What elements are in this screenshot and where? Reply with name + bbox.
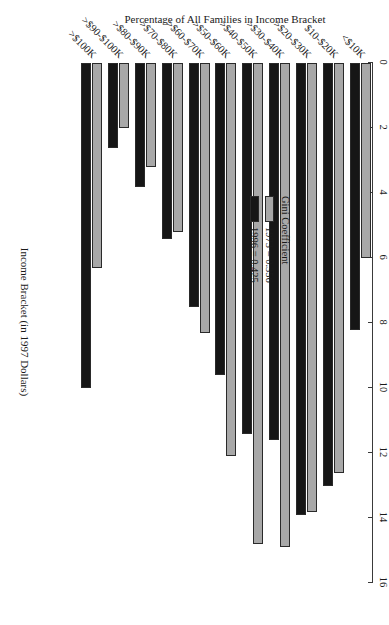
value-tick-label: 16 <box>378 577 389 588</box>
bar-1996 <box>350 63 360 330</box>
bar-1996 <box>323 63 333 486</box>
bar-group: >$50-$60K <box>210 63 237 583</box>
category-label: <$10K <box>339 33 367 61</box>
bar-1973 <box>119 63 129 128</box>
legend-swatch-1996 <box>250 196 259 222</box>
bar-1996 <box>108 63 118 148</box>
category-axis-title: Income Bracket (in 1997 Dollars) <box>19 62 31 582</box>
value-tick-label: 12 <box>378 447 389 458</box>
bar-1996 <box>215 63 225 375</box>
bar-1973 <box>173 63 183 232</box>
bar-1973 <box>92 63 102 268</box>
bar-1996 <box>135 63 145 187</box>
value-tick-label: 10 <box>378 382 389 393</box>
bar-1973 <box>280 63 290 547</box>
legend-label-1996: 1996 = 0.425 <box>248 227 261 283</box>
bar-1973 <box>200 63 210 333</box>
legend: Gini Coefficient 1973 = 0.356 1996 = 0.4… <box>248 196 292 283</box>
legend-swatch-1973 <box>265 196 274 222</box>
bar-group: >$20-$30K <box>290 63 317 583</box>
bar-group: >$70-$80K <box>156 63 183 583</box>
legend-item-1973: 1973 = 0.356 <box>263 196 276 283</box>
bar-1973 <box>361 63 371 258</box>
bar-1996 <box>189 63 199 307</box>
value-tick-label: 0 <box>378 59 389 64</box>
legend-item-1996: 1996 = 0.425 <box>248 196 261 283</box>
bar-group: <$10K <box>344 63 371 583</box>
value-tick-label: 4 <box>378 189 389 194</box>
bar-1996 <box>81 63 91 388</box>
bar-1973 <box>226 63 236 456</box>
bar-group: $10-$20K <box>317 63 344 583</box>
bar-1973 <box>146 63 156 167</box>
bar-group: >$60-$70K <box>183 63 210 583</box>
value-tick-label: 14 <box>378 512 389 523</box>
legend-label-1973: 1973 = 0.356 <box>263 227 276 283</box>
bar-1973 <box>307 63 317 512</box>
bar-1996 <box>296 63 306 515</box>
bar-1973 <box>334 63 344 473</box>
bar-group: >$100K <box>75 63 102 583</box>
plot-area: 0246810121416 <$10K$10-$20K>$20-$30K>$30… <box>77 62 373 582</box>
value-tick-label: 2 <box>378 124 389 129</box>
legend-title: Gini Coefficient <box>279 196 292 283</box>
bar-group: >$80-$90K <box>129 63 156 583</box>
value-tick-label: 6 <box>378 254 389 259</box>
bar-group: >$90-$100K <box>102 63 129 583</box>
bar-group: >$40-$50K <box>236 63 263 583</box>
bar-group: >$30-$40K <box>263 63 290 583</box>
value-tick-label: 8 <box>378 319 389 324</box>
bar-1973 <box>253 63 263 544</box>
bar-1996 <box>162 63 172 239</box>
